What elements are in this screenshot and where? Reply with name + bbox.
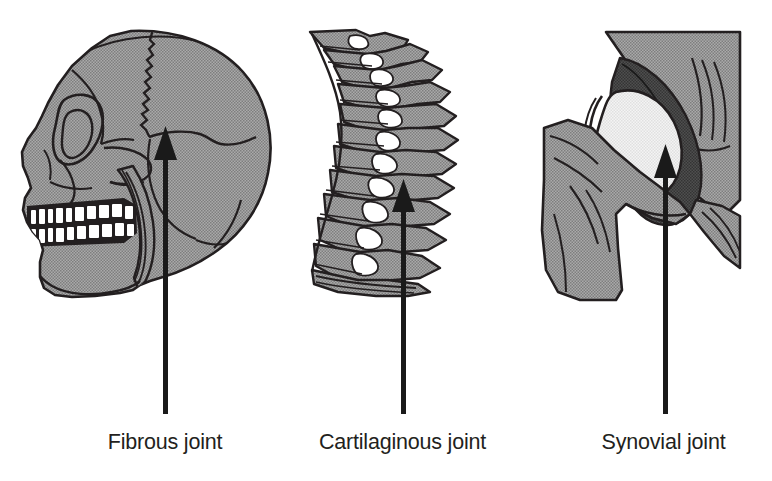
panel-cartilaginous-joint	[290, 0, 500, 481]
caption-cartilaginous-joint: Cartilaginous joint	[290, 432, 515, 454]
panel-fibrous-joint	[0, 0, 300, 481]
joint-types-figure: Fibrous joint Cartilaginous joint Synovi…	[0, 0, 772, 481]
vertebral-column	[310, 30, 458, 296]
panel-synovial-joint	[540, 0, 772, 481]
caption-fibrous-joint: Fibrous joint	[0, 432, 330, 454]
ischium	[690, 200, 740, 268]
caption-synovial-joint: Synovial joint	[555, 432, 772, 454]
hip-joint	[542, 32, 740, 300]
teeth-icon	[27, 198, 137, 247]
